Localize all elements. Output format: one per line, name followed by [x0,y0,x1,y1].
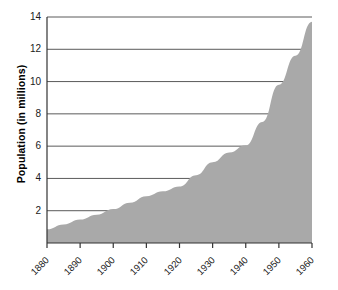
area-series-population [47,22,312,243]
plot-canvas [0,0,338,290]
population-area-chart: Population (in millions) 2468101214 1880… [0,0,338,290]
x-axis-tick-marks [47,243,312,248]
